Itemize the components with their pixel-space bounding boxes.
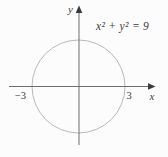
x-tick-negative: −3 [15, 90, 26, 101]
y-axis-label: y [67, 3, 73, 15]
x-tick-positive: 3 [126, 90, 131, 101]
equation-label: x² + y² = 9 [95, 20, 149, 33]
figure-canvas: y x 3 −3 x² + y² = 9 [0, 0, 168, 157]
x-axis-label: x [149, 90, 155, 102]
